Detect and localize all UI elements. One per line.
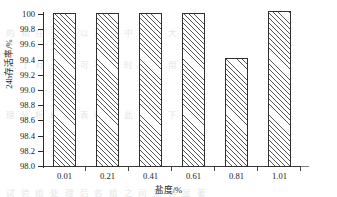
y-tick-label: 99.4 <box>20 56 35 65</box>
y-tick-mark <box>38 151 43 152</box>
x-tick-mark <box>85 167 86 171</box>
y-tick-mark <box>38 90 43 91</box>
x-tick-label: 0.81 <box>218 172 255 181</box>
y-tick-label: 98.6 <box>20 116 35 125</box>
y-tick-mark <box>38 75 43 76</box>
bar-0.21[interactable] <box>96 13 119 167</box>
x-tick-label: 0.21 <box>89 172 126 181</box>
x-tick-mark <box>171 167 172 171</box>
y-tick-mark <box>38 60 43 61</box>
y-axis-title: 24h存活率/% <box>2 28 14 100</box>
y-tick-label: 100 <box>22 10 35 19</box>
y-tick-mark <box>38 105 43 106</box>
bar-0.61[interactable] <box>182 13 205 167</box>
x-tick-label: 0.41 <box>132 172 169 181</box>
y-tick-mark <box>38 44 43 45</box>
y-tick-label: 98.0 <box>20 162 35 171</box>
x-tick-label: 0.01 <box>46 172 83 181</box>
x-tick-mark <box>300 167 301 171</box>
x-tick-label: 1.01 <box>261 172 298 181</box>
y-axis-line <box>43 12 44 168</box>
y-tick-label: 99.0 <box>20 86 35 95</box>
x-tick-mark <box>257 167 258 171</box>
y-tick-label: 99.8 <box>20 25 35 34</box>
bar-1.01[interactable] <box>268 11 291 167</box>
y-tick-mark <box>38 14 43 15</box>
y-tick-mark <box>38 166 43 167</box>
bar-0.81[interactable] <box>225 58 248 167</box>
y-tick-label: 99.6 <box>20 40 35 49</box>
y-tick-label: 99.2 <box>20 71 35 80</box>
x-tick-label: 0.61 <box>175 172 212 181</box>
x-tick-mark <box>128 167 129 171</box>
bar-0.01[interactable] <box>53 13 76 167</box>
y-tick-mark <box>38 29 43 30</box>
bar-0.41[interactable] <box>139 13 162 167</box>
x-axis-line <box>43 166 301 167</box>
x-axis-title: 盐度/% <box>0 183 337 195</box>
y-tick-label: 98.2 <box>20 147 35 156</box>
x-tick-mark <box>214 167 215 171</box>
y-tick-mark <box>38 136 43 137</box>
y-tick-label: 98.4 <box>20 132 35 141</box>
y-tick-mark <box>38 120 43 121</box>
y-tick-label: 98.8 <box>20 101 35 110</box>
bar-chart-figure: 的 和 在 于 为 以 及 其 中 一 个 大 小 与 了 对 上 等 可 不 … <box>0 0 337 197</box>
